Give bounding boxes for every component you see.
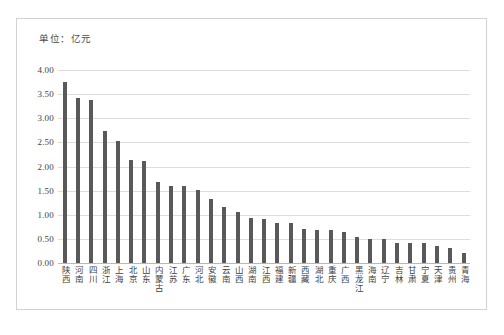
x-label-slot: 天津 xyxy=(430,265,443,327)
bar xyxy=(63,82,67,263)
x-label-slot: 四川 xyxy=(85,265,98,327)
x-tick-label: 江苏 xyxy=(167,266,176,284)
bar xyxy=(315,230,319,263)
bar-slot xyxy=(231,70,244,263)
bar-slot xyxy=(85,70,98,263)
y-tick-label: 0.50 xyxy=(37,234,54,244)
x-tick-label: 云南 xyxy=(220,266,229,284)
x-tick-label: 新疆 xyxy=(286,266,295,284)
bar xyxy=(435,246,439,263)
x-label-slot: 内蒙古 xyxy=(151,265,164,327)
y-tick-label: 2.50 xyxy=(37,137,54,147)
x-tick-label: 广西 xyxy=(339,266,348,284)
x-label-slot: 湖南 xyxy=(244,265,257,327)
bar xyxy=(329,230,333,263)
bar xyxy=(76,98,80,263)
x-label-slot: 辽宁 xyxy=(377,265,390,327)
plot-area: 4.003.503.002.502.001.501.000.500.00 xyxy=(58,70,470,263)
x-tick-label: 浙江 xyxy=(100,266,109,284)
bar xyxy=(103,131,107,263)
x-label-slot: 青海 xyxy=(457,265,470,327)
x-tick-label: 湖北 xyxy=(313,266,322,284)
bar-slot xyxy=(111,70,124,263)
bar xyxy=(289,223,293,263)
bar xyxy=(236,212,240,263)
x-label-slot: 江苏 xyxy=(164,265,177,327)
bar xyxy=(89,100,93,263)
x-label-slot: 西藏 xyxy=(297,265,310,327)
x-tick-label: 江西 xyxy=(260,266,269,284)
bar xyxy=(342,232,346,263)
x-tick-label: 青海 xyxy=(459,266,468,284)
x-tick-label: 重庆 xyxy=(326,266,335,284)
bar-slot xyxy=(430,70,443,263)
x-tick-label: 山西 xyxy=(233,266,242,284)
bar-slot xyxy=(138,70,151,263)
y-tick-label: 1.50 xyxy=(37,186,54,196)
bar xyxy=(368,239,372,263)
bar xyxy=(275,223,279,263)
x-tick-label: 河南 xyxy=(73,266,82,284)
bar xyxy=(169,186,173,263)
x-label-slot: 福建 xyxy=(271,265,284,327)
bar xyxy=(395,243,399,263)
bar xyxy=(408,243,412,263)
bar-slot xyxy=(351,70,364,263)
x-tick-label: 山东 xyxy=(140,266,149,284)
x-label-slot: 甘肃 xyxy=(404,265,417,327)
bar-slot xyxy=(324,70,337,263)
y-tick-label: 4.00 xyxy=(37,65,54,75)
bar-series xyxy=(58,70,470,263)
bar-slot xyxy=(71,70,84,263)
bar-slot xyxy=(417,70,430,263)
bar xyxy=(302,229,306,263)
x-label-slot: 重庆 xyxy=(324,265,337,327)
x-tick-label: 上海 xyxy=(113,266,122,284)
x-tick-label: 辽宁 xyxy=(379,266,388,284)
x-tick-label: 陕西 xyxy=(60,266,69,284)
bar-slot xyxy=(297,70,310,263)
x-label-slot: 山东 xyxy=(138,265,151,327)
x-label-slot: 宁夏 xyxy=(417,265,430,327)
x-tick-label: 河北 xyxy=(193,266,202,284)
bar-slot xyxy=(178,70,191,263)
x-tick-label: 湖南 xyxy=(246,266,255,284)
bar-slot xyxy=(151,70,164,263)
unit-note-label: 单位：亿元 xyxy=(39,31,92,45)
bar-slot xyxy=(337,70,350,263)
x-tick-label: 甘肃 xyxy=(406,266,415,284)
bar-slot xyxy=(444,70,457,263)
bar xyxy=(262,219,266,263)
bar-slot xyxy=(390,70,403,263)
y-tick-label: 3.50 xyxy=(37,89,54,99)
x-label-slot: 山西 xyxy=(231,265,244,327)
bar xyxy=(382,239,386,263)
x-label-slot: 黑龙江 xyxy=(351,265,364,327)
x-label-slot: 吉林 xyxy=(390,265,403,327)
x-tick-label: 北京 xyxy=(127,266,136,284)
y-tick-label: 0.00 xyxy=(37,258,54,268)
x-label-slot: 广东 xyxy=(178,265,191,327)
bar xyxy=(116,141,120,263)
x-label-slot: 北京 xyxy=(124,265,137,327)
y-tick-label: 1.00 xyxy=(37,210,54,220)
bar-slot xyxy=(244,70,257,263)
bar xyxy=(422,243,426,263)
bar xyxy=(129,160,133,263)
x-label-slot: 河南 xyxy=(71,265,84,327)
bar-slot xyxy=(164,70,177,263)
bar xyxy=(156,182,160,263)
bar-slot xyxy=(218,70,231,263)
bar-slot xyxy=(377,70,390,263)
x-tick-label: 四川 xyxy=(87,266,96,284)
x-tick-label: 宁夏 xyxy=(419,266,428,284)
x-tick-label: 海南 xyxy=(366,266,375,284)
x-tick-label: 贵州 xyxy=(446,266,455,284)
chart-figure: 单位：亿元 4.003.503.002.502.001.501.000.500.… xyxy=(16,18,487,310)
x-label-slot: 陕西 xyxy=(58,265,71,327)
bar-slot xyxy=(98,70,111,263)
y-tick-label: 3.00 xyxy=(37,113,54,123)
x-label-slot: 云南 xyxy=(218,265,231,327)
x-label-slot: 海南 xyxy=(364,265,377,327)
bar-slot xyxy=(457,70,470,263)
